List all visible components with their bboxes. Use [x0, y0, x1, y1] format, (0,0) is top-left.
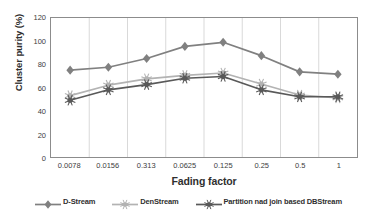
y-tick-label: 40 [20, 107, 46, 116]
legend-label: D-Stream [63, 197, 95, 206]
legend-marker-icon [196, 196, 222, 207]
legend-label: DenStream [140, 197, 178, 206]
x-tick-label: 0.5 [295, 161, 305, 170]
y-tick-label: 20 [20, 130, 46, 139]
x-axis-title: Fading factor [50, 175, 358, 187]
data-point-marker [334, 70, 341, 79]
x-tick-label: 0.25 [254, 161, 269, 170]
x-tick-label: 0.0156 [96, 161, 119, 170]
x-tick-label: 0.0078 [58, 161, 81, 170]
x-tick-label: 0.0625 [173, 161, 196, 170]
data-point-marker [66, 66, 73, 75]
data-point-marker [143, 54, 150, 63]
data-point-marker [296, 67, 303, 76]
legend-item[interactable]: D-Stream [35, 196, 95, 207]
legend-item[interactable]: Partition nad join based DBStream [196, 196, 342, 207]
data-point-marker [181, 42, 188, 51]
y-tick-label: 60 [20, 83, 46, 92]
legend-marker-icon [35, 196, 61, 207]
x-tick-label: 0.313 [137, 161, 156, 170]
cluster-purity-line-chart: Cluster purity (%) 120100806040200 0.007… [0, 0, 377, 217]
data-point-marker [219, 38, 226, 47]
legend-marker-icon [112, 196, 138, 207]
x-tick-label: 1 [337, 161, 341, 170]
y-axis-tick-labels: 120100806040200 [20, 0, 46, 217]
legend-item[interactable]: DenStream [112, 196, 178, 207]
data-point-marker [258, 51, 265, 60]
data-point-marker [105, 63, 112, 72]
chart-canvas [51, 18, 357, 157]
y-tick-label: 120 [20, 13, 46, 22]
x-axis-tick-labels: 0.00780.01560.3130.06250.1250.250.51 [50, 161, 358, 175]
legend-label: Partition nad join based DBStream [224, 197, 342, 206]
plot-area [50, 17, 358, 158]
y-tick-label: 0 [20, 154, 46, 163]
y-tick-label: 100 [20, 36, 46, 45]
chart-legend: D-StreamDenStreamPartition nad join base… [0, 196, 377, 207]
x-tick-label: 0.125 [214, 161, 233, 170]
y-tick-label: 80 [20, 60, 46, 69]
